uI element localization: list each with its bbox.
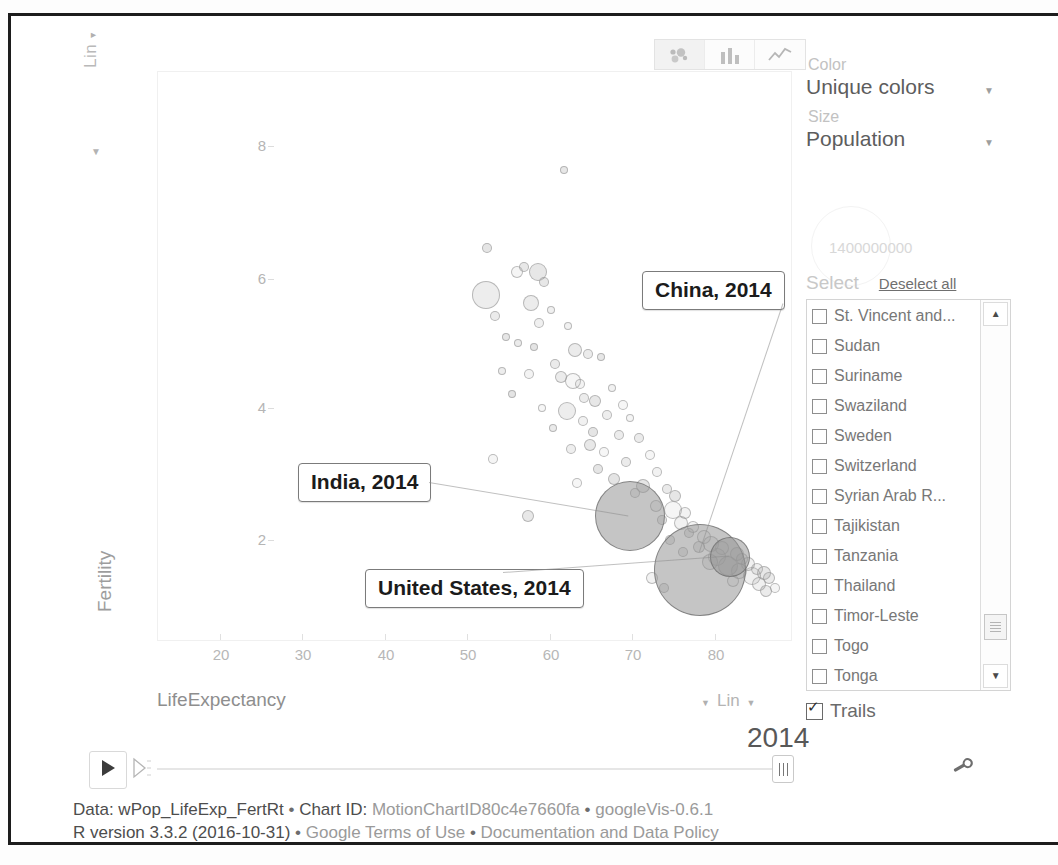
bubble-point[interactable]	[502, 333, 510, 341]
country-checkbox[interactable]	[812, 579, 827, 594]
scroll-down-button[interactable]: ▼	[983, 664, 1008, 688]
timeline-track[interactable]	[157, 768, 793, 770]
trails-toggle[interactable]: Trails	[806, 700, 876, 722]
bubble-point[interactable]	[523, 295, 539, 311]
tab-line-chart[interactable]	[755, 40, 805, 69]
bubble-point[interactable]	[593, 464, 603, 474]
bubble-point[interactable]	[488, 454, 498, 464]
deselect-all-link[interactable]: Deselect all	[879, 275, 957, 292]
timeline-thumb[interactable]	[772, 755, 794, 783]
bubble-point[interactable]	[522, 510, 534, 522]
country-checkbox[interactable]	[812, 519, 827, 534]
list-item[interactable]: Tonga	[807, 661, 980, 690]
bubble-point[interactable]	[760, 585, 772, 597]
country-checkbox[interactable]	[812, 639, 827, 654]
bubble-point[interactable]	[608, 384, 616, 392]
list-item[interactable]: Swaziland	[807, 391, 980, 421]
bubble-point[interactable]	[584, 439, 596, 451]
country-checkbox[interactable]	[812, 669, 827, 684]
bubble-point[interactable]	[490, 311, 500, 321]
bubble-point[interactable]	[597, 353, 605, 361]
bubble-point[interactable]	[579, 393, 589, 403]
list-item[interactable]: Suriname	[807, 361, 980, 391]
bubble-point[interactable]	[530, 343, 538, 351]
bubble-point[interactable]	[626, 414, 634, 422]
size-dropdown[interactable]: Population ▼	[806, 127, 1018, 151]
bubble-point[interactable]	[547, 306, 555, 314]
scrollbar-thumb[interactable]	[984, 614, 1007, 640]
x-axis-scale-selector[interactable]: ▼Lin▼	[701, 691, 756, 711]
bubble-point[interactable]	[472, 281, 500, 309]
country-checkbox[interactable]	[812, 369, 827, 384]
bubble-point[interactable]	[539, 277, 549, 287]
list-item[interactable]: Thailand	[807, 571, 980, 601]
list-item[interactable]: Timor-Leste	[807, 601, 980, 631]
country-checkbox[interactable]	[812, 549, 827, 564]
list-item[interactable]: Sweden	[807, 421, 980, 451]
plot-area[interactable]	[157, 71, 792, 641]
y-axis-collapse-toggle[interactable]: ▼	[91, 146, 101, 157]
country-checkbox[interactable]	[812, 339, 827, 354]
bubble-point[interactable]	[614, 430, 624, 440]
bubble-point[interactable]	[564, 322, 572, 330]
footer-docs-link[interactable]: Documentation and Data Policy	[481, 823, 719, 842]
bubble-point[interactable]	[524, 369, 534, 379]
list-item[interactable]: Syrian Arab R...	[807, 481, 980, 511]
footer-terms-link[interactable]: Google Terms of Use	[306, 823, 465, 842]
y-axis-scale-selector[interactable]: Lin▼	[81, 30, 101, 68]
trails-checkbox[interactable]	[806, 703, 823, 720]
bubble-point[interactable]	[618, 400, 628, 410]
list-item[interactable]: St. Vincent and...	[807, 301, 980, 331]
bubble-point[interactable]	[519, 262, 529, 272]
bubble-point[interactable]	[560, 166, 568, 174]
annotation-india[interactable]: India, 2014	[298, 463, 431, 502]
bubble-point[interactable]	[578, 416, 588, 426]
list-item[interactable]: Tanzania	[807, 541, 980, 571]
annotation-china[interactable]: China, 2014	[642, 271, 785, 310]
country-checkbox[interactable]	[812, 309, 827, 324]
bubble-point[interactable]	[589, 395, 601, 407]
bubble-point[interactable]	[534, 318, 544, 328]
country-checkbox[interactable]	[812, 459, 827, 474]
bubble-point[interactable]	[550, 359, 560, 369]
bubble-point[interactable]	[558, 402, 576, 420]
scroll-up-button[interactable]: ▲	[983, 302, 1008, 326]
bubble-point[interactable]	[508, 390, 516, 398]
bubble-point-highlighted[interactable]	[595, 481, 665, 551]
settings-button[interactable]	[948, 752, 978, 782]
playback-speed-button[interactable]	[129, 753, 155, 787]
bubble-point[interactable]	[634, 433, 644, 443]
bubble-point[interactable]	[498, 367, 506, 375]
tab-bubble-chart[interactable]	[655, 40, 705, 69]
chart-type-tabs[interactable]	[654, 39, 806, 70]
bubble-point[interactable]	[514, 339, 522, 347]
color-dropdown[interactable]: Unique colors ▼	[806, 75, 1018, 99]
country-checkbox[interactable]	[812, 489, 827, 504]
country-checkbox[interactable]	[812, 609, 827, 624]
list-item[interactable]: Switzerland	[807, 451, 980, 481]
list-item[interactable]: Togo	[807, 631, 980, 661]
bubble-point[interactable]	[588, 427, 598, 437]
country-listbox[interactable]: St. Vincent and...SudanSurinameSwaziland…	[806, 299, 1011, 691]
list-item[interactable]: Tajikistan	[807, 511, 980, 541]
bubble-point[interactable]	[645, 450, 655, 460]
bubble-point[interactable]	[566, 444, 576, 454]
bubble-point[interactable]	[568, 343, 582, 357]
bubble-point[interactable]	[602, 410, 612, 420]
bubble-point[interactable]	[583, 349, 593, 359]
country-checkbox[interactable]	[812, 399, 827, 414]
bubble-point[interactable]	[549, 424, 557, 432]
bubble-point[interactable]	[652, 467, 662, 477]
country-checkbox[interactable]	[812, 429, 827, 444]
bubble-point[interactable]	[482, 243, 492, 253]
bubble-point[interactable]	[538, 404, 546, 412]
bubble-point[interactable]	[599, 447, 609, 457]
list-item[interactable]: Sudan	[807, 331, 980, 361]
tab-bar-chart[interactable]	[705, 40, 755, 69]
annotation-united-states[interactable]: United States, 2014	[365, 569, 584, 608]
bubble-point[interactable]	[572, 478, 582, 488]
bubble-point[interactable]	[621, 457, 631, 467]
play-button[interactable]	[89, 751, 127, 789]
country-list[interactable]: St. Vincent and...SudanSurinameSwaziland…	[807, 300, 980, 690]
listbox-scrollbar[interactable]: ▲ ▼	[980, 300, 1010, 690]
